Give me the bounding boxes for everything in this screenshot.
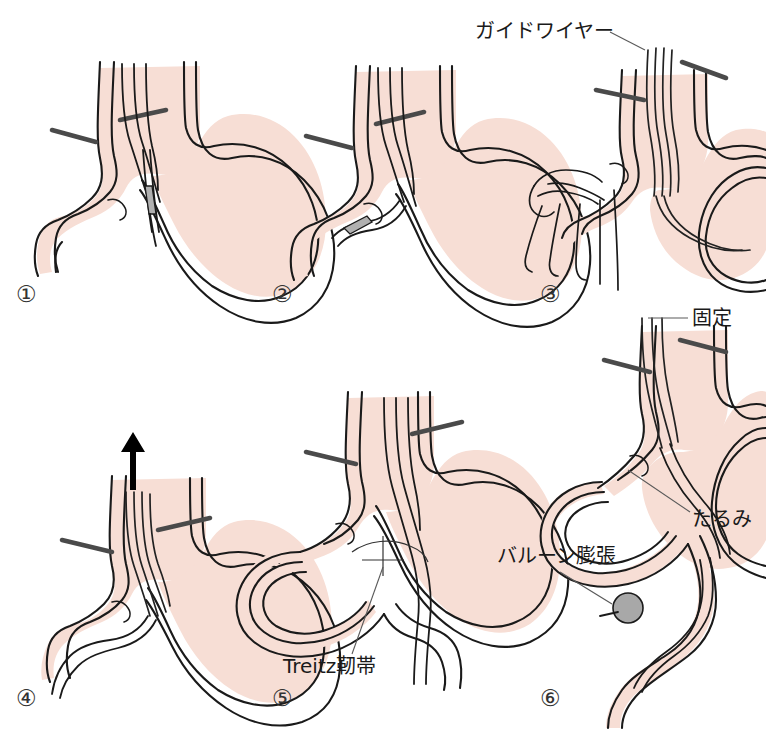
- panel-5-number: ⑤: [272, 685, 293, 711]
- panel-3-number: ③: [540, 281, 561, 307]
- guidewire-label: ガイドワイヤー: [475, 19, 614, 43]
- panel-4-number: ④: [16, 685, 37, 711]
- illustration-figure: ① ②: [0, 0, 766, 736]
- balloon-inflation-label: バルーン膨張: [497, 544, 616, 568]
- fixation-label: 固定: [692, 306, 732, 330]
- panel-6-number: ⑥: [540, 685, 561, 711]
- panel-1-number: ①: [16, 281, 37, 307]
- panel-2-number: ②: [272, 281, 293, 307]
- slack-label: たるみ: [692, 507, 752, 531]
- panel6-inflated-balloon: [613, 593, 643, 623]
- treitz-label: Treitz靭帯: [282, 654, 376, 678]
- medical-illustration-svg: ① ②: [0, 0, 766, 736]
